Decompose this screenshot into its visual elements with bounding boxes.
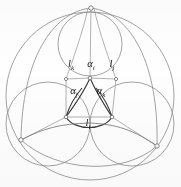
label-angle-j: αj [70,85,78,98]
kite-base-left [66,78,90,79]
vertex-dot-triangle-top [88,76,92,80]
diagram-canvas: αi αj αk li lj lk [0,0,181,187]
vertex-dot-triangle-right [110,115,114,119]
kite-base-right [90,78,116,79]
geometry-figure: αi αj αk li lj lk [0,0,181,187]
lower-segment-right [112,79,116,117]
vertex-dot-top [89,6,93,10]
curvilinear-side-j [90,78,112,117]
vertex-dot-triangle-left [64,115,68,119]
vertex-dot-left [19,138,23,142]
vertex-dot-kite-right [114,77,117,80]
sweep-arc-bottom [21,140,157,166]
curvilinear-side-k [66,78,90,117]
label-side-k: lk [68,58,75,71]
label-angle-k: αk [97,85,107,98]
vertex-dot-right [155,144,159,148]
vertex-dot-kite-left [64,77,67,80]
label-side-j: lj [110,58,115,71]
label-angle-i: αi [87,58,95,71]
outer-circle [6,12,174,180]
sweep-arc-top-left [21,8,91,140]
